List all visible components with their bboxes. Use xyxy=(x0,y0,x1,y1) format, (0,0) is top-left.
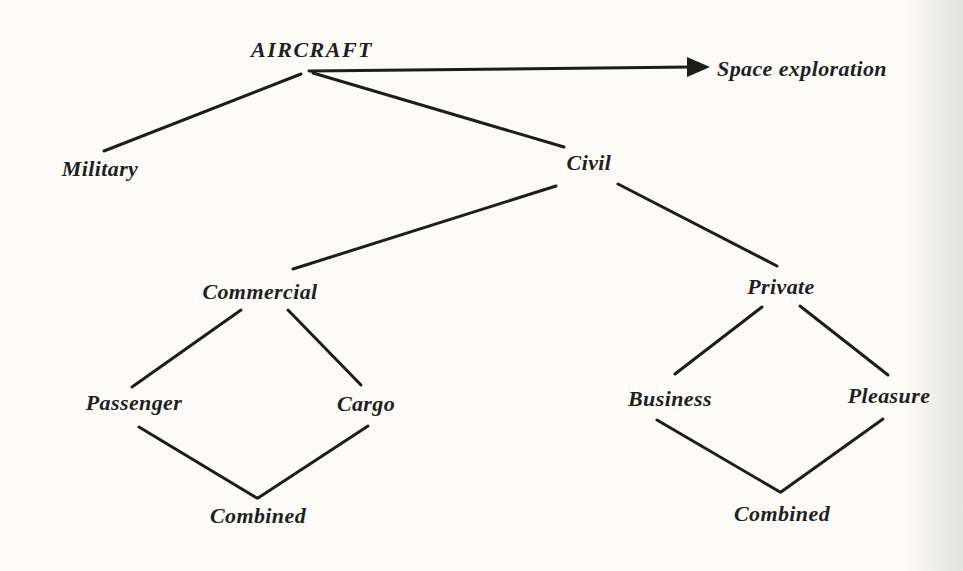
edge-passenger-combined xyxy=(139,427,257,498)
arrowhead-icon xyxy=(687,57,710,77)
edge-civil-commercial xyxy=(293,186,556,269)
edge-cargo-combined xyxy=(258,426,368,498)
edge-business-combined xyxy=(657,420,780,492)
node-military: Military xyxy=(62,156,139,182)
node-cargo: Cargo xyxy=(337,391,395,417)
node-business: Business xyxy=(628,386,712,412)
scanned-page: AIRCRAFT Space exploration Military Civi… xyxy=(0,0,963,571)
node-commercial: Commercial xyxy=(202,279,317,305)
node-aircraft: AIRCRAFT xyxy=(251,37,373,63)
node-private: Private xyxy=(747,274,815,300)
node-civil: Civil xyxy=(567,150,612,176)
node-pleasure: Pleasure xyxy=(848,383,931,409)
edge-commercial-cargo xyxy=(288,310,361,385)
node-space-exploration: Space exploration xyxy=(717,56,887,82)
edge-aircraft-space-shaft xyxy=(309,67,691,71)
node-passenger: Passenger xyxy=(86,390,183,416)
node-combined-commercial: Combined xyxy=(210,503,306,529)
tree-edges xyxy=(0,0,963,571)
edge-private-pleasure xyxy=(800,306,888,375)
node-combined-private: Combined xyxy=(734,501,830,527)
edge-pleasure-combined xyxy=(781,419,883,492)
edge-commercial-passenger xyxy=(132,310,241,387)
edge-aircraft-military xyxy=(104,74,301,151)
edge-aircraft-civil xyxy=(313,73,564,147)
edge-private-business xyxy=(675,307,762,374)
edge-civil-private xyxy=(618,184,777,266)
